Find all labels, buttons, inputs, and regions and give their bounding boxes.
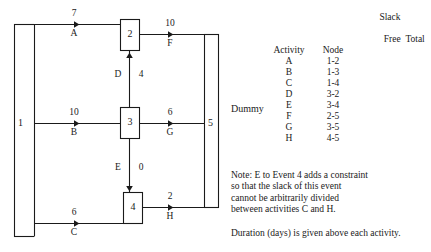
cell-slack <box>354 111 426 122</box>
duration-activity-f: 10 <box>158 19 182 29</box>
node-label-3: 3 <box>120 117 140 127</box>
arrowhead-activity-g <box>168 120 174 127</box>
node-label-4: 4 <box>123 202 143 212</box>
duration-activity-g: 6 <box>158 108 182 118</box>
note-line-4: between activities C and H. <box>231 204 431 215</box>
note-line-1: Note: E to Event 4 adds a constraint <box>231 170 431 181</box>
event-label-5: 5 <box>208 118 213 128</box>
table-row: C 1-4 <box>266 78 426 89</box>
node-label-2: 2 <box>120 29 140 39</box>
duration-activity-e: 0 <box>134 163 148 173</box>
cell-slack <box>354 89 426 100</box>
schedule-table-block: Slack Activity Node Free Total A 1-2 <box>266 12 426 144</box>
cell-activity: B <box>266 67 312 78</box>
table-row: A 1-2 <box>266 56 426 67</box>
label-activity-f: F <box>158 39 182 49</box>
cell-activity: C <box>266 78 312 89</box>
table-body: A 1-2 B 1-3 C 1-4 D 3-2 <box>266 56 426 144</box>
cell-activity: H <box>266 133 312 144</box>
cell-slack <box>354 78 426 89</box>
arrowhead-activity-f <box>168 31 174 38</box>
cell-slack <box>354 100 426 111</box>
note-line-3: cannot be arbitrarily divided <box>231 193 431 204</box>
duration-note-line: Duration (days) is given above each acti… <box>231 228 431 239</box>
cell-node: 4-5 <box>312 133 354 144</box>
arrowhead-activity-d <box>126 53 133 59</box>
note-block: Note: E to Event 4 adds a constraint so … <box>231 170 431 215</box>
duration-activity-b: 10 <box>62 108 86 118</box>
duration-activity-h: 2 <box>158 192 182 202</box>
table-header-row: Activity Node Free Total <box>266 23 426 56</box>
cell-node: 3-2 <box>312 89 354 100</box>
arrowhead-activity-b <box>74 120 80 127</box>
header-activity: Activity <box>266 23 312 56</box>
table-row: G 3-5 <box>266 122 426 133</box>
table-row: H 4-5 <box>266 133 426 144</box>
arrowhead-activity-c <box>74 220 80 227</box>
cell-node: 1-2 <box>312 56 354 67</box>
table-row: D 3-2 <box>266 89 426 100</box>
table-row: B 1-3 <box>266 67 426 78</box>
table-row: F 2-5 <box>266 111 426 122</box>
table-row: E 3-4 <box>266 100 426 111</box>
cell-activity: D <box>266 89 312 100</box>
cell-node: 3-5 <box>312 122 354 133</box>
label-activity-d: D <box>111 70 125 80</box>
note-line-2: so that the slack of this event <box>231 181 431 192</box>
arrowhead-activity-h <box>168 204 174 211</box>
cell-slack <box>354 56 426 67</box>
cell-slack <box>354 67 426 78</box>
label-activity-e: E <box>111 163 125 173</box>
header-free: Free <box>384 34 401 44</box>
header-node: Node <box>312 23 354 56</box>
cell-node: 3-4 <box>312 100 354 111</box>
cell-activity: F <box>266 111 312 122</box>
dummy-label: Dummy <box>231 104 264 114</box>
slack-group-header: Slack <box>354 12 426 23</box>
cell-activity: A <box>266 56 312 67</box>
header-total: Total <box>405 34 424 44</box>
label-activity-g: G <box>158 128 182 138</box>
header-free-total: Free Total <box>354 23 426 56</box>
cell-slack <box>354 133 426 144</box>
event-label-1: 1 <box>18 118 23 128</box>
cell-activity: E <box>266 100 312 111</box>
cell-slack <box>354 122 426 133</box>
arrowhead-activity-e <box>126 186 133 192</box>
duration-activity-d: 4 <box>134 70 148 80</box>
diagram-page: 2 3 4 1 5 7 10 6 4 0 10 6 2 A B C D E F … <box>0 0 431 252</box>
cell-node: 1-4 <box>312 78 354 89</box>
arrowhead-activity-a <box>74 21 80 28</box>
duration-activity-c: 6 <box>62 208 86 218</box>
duration-activity-a: 7 <box>62 9 86 19</box>
cell-activity: G <box>266 122 312 133</box>
label-activity-a: A <box>62 29 86 39</box>
schedule-table: Activity Node Free Total A 1-2 B 1-3 <box>266 23 426 144</box>
cell-node: 1-3 <box>312 67 354 78</box>
label-activity-c: C <box>62 228 86 238</box>
duration-note: Duration (days) is given above each acti… <box>231 228 431 239</box>
label-activity-b: B <box>62 128 86 138</box>
cell-node: 2-5 <box>312 111 354 122</box>
label-activity-h: H <box>158 212 182 222</box>
